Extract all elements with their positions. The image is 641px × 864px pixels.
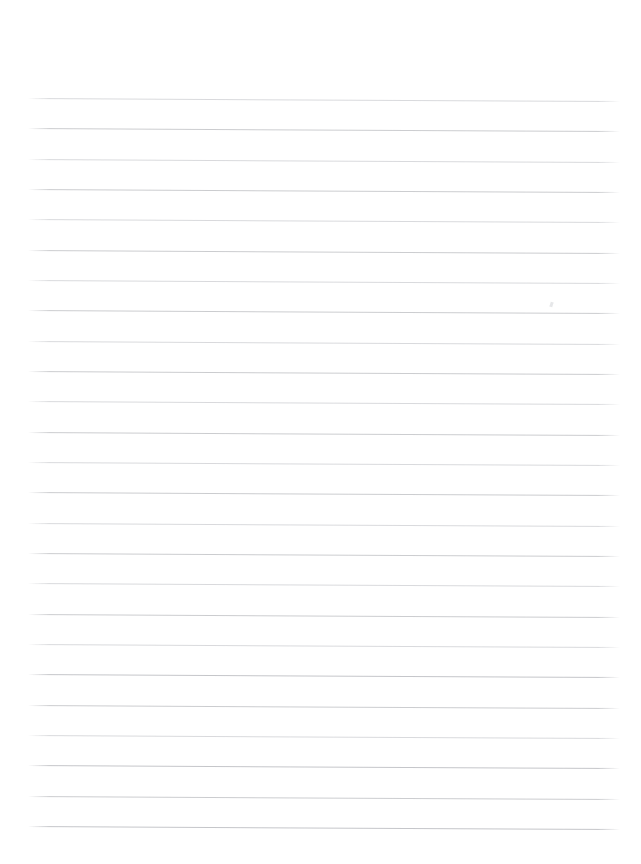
rule-line-2: [28, 128, 620, 132]
rule-line-6: [28, 250, 620, 254]
lined-paper-sheet: [0, 0, 641, 864]
rule-line-10: [28, 371, 620, 375]
rule-line-7: [28, 280, 620, 284]
rule-line-20: [28, 674, 620, 678]
rule-line-1: [28, 98, 620, 102]
rule-line-14: [28, 492, 620, 496]
rule-line-23: [28, 765, 620, 769]
rule-line-4: [28, 189, 620, 193]
rule-line-21: [28, 705, 620, 709]
rule-line-13: [28, 462, 620, 466]
rule-line-18: [28, 614, 620, 618]
rule-line-3: [28, 159, 620, 163]
rule-line-15: [28, 523, 620, 527]
rule-line-24: [28, 796, 620, 800]
rule-line-17: [28, 583, 620, 587]
rule-line-5: [28, 219, 620, 223]
rule-line-25: [28, 826, 620, 830]
rule-line-9: [28, 341, 620, 345]
rule-line-16: [28, 553, 620, 557]
rule-line-22: [28, 735, 620, 739]
pencil-smudge: [549, 302, 553, 308]
rule-line-19: [28, 644, 620, 648]
rule-line-12: [28, 432, 620, 436]
rule-line-11: [28, 401, 620, 405]
rule-line-8: [28, 310, 620, 314]
